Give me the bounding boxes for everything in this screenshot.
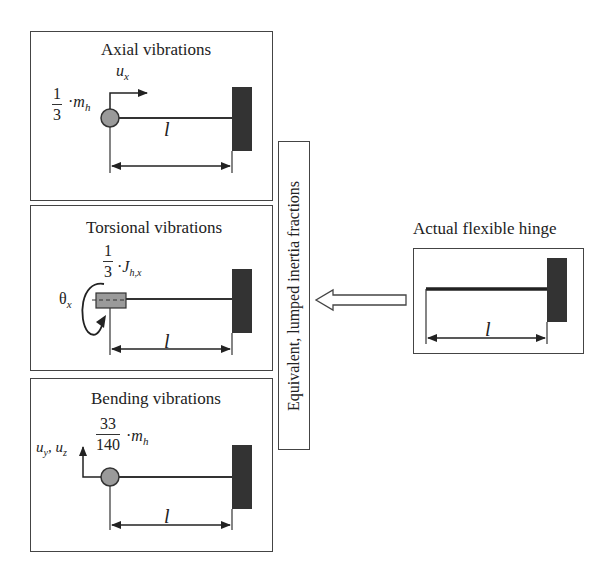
axial-mass-icon bbox=[101, 109, 119, 127]
axial-drawing bbox=[101, 87, 252, 173]
torsional-drawing bbox=[82, 269, 252, 355]
hollow-left-arrow-icon bbox=[316, 290, 406, 310]
bending-mass-icon bbox=[101, 468, 119, 486]
diagram-drawing bbox=[0, 0, 611, 575]
axial-wall-icon bbox=[232, 87, 252, 151]
torsional-wall-icon bbox=[232, 269, 252, 333]
torsional-rotation-arrow-icon bbox=[82, 284, 104, 335]
bending-drawing bbox=[83, 445, 252, 530]
bending-wall-icon bbox=[232, 445, 252, 509]
actual-hinge-drawing bbox=[426, 258, 567, 344]
actual-wall-icon bbox=[547, 258, 567, 322]
